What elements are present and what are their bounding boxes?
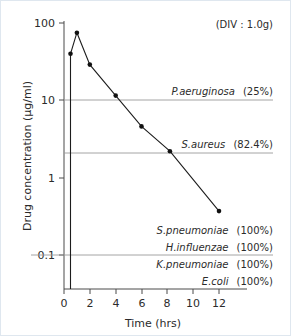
x-tick-label-6: 6 xyxy=(139,297,146,310)
data-point xyxy=(168,149,173,154)
dose-annotation: (DIV : 1.0g) xyxy=(216,19,273,30)
y-tick-label-10: 10 xyxy=(41,94,55,107)
data-point xyxy=(88,62,93,67)
x-tick-label-10: 10 xyxy=(186,297,200,310)
organism-name-s-aureus: S.aureus xyxy=(182,139,226,150)
data-point xyxy=(217,209,222,214)
y-tick-label-1: 1 xyxy=(48,172,55,185)
pharmacokinetic-chart: 100 10 1 0.1 0 2 4 6 8 10 12 Time (hrs) … xyxy=(1,1,291,336)
organism-label-s-pneumoniae: S.pneumoniae (100%) xyxy=(157,219,274,238)
organism-percent-s-pneumoniae: (100%) xyxy=(237,225,273,236)
x-tick-label-12: 12 xyxy=(212,297,226,310)
chart-container: 100 10 1 0.1 0 2 4 6 8 10 12 Time (hrs) … xyxy=(0,0,291,336)
organism-label-s-aureus: S.aureus (82.4%) xyxy=(182,133,274,152)
organism-name-k-pneumoniae: K.pneumoniae xyxy=(156,259,228,270)
x-tick-label-2: 2 xyxy=(87,297,94,310)
organism-percent-p-aeruginosa: (25%) xyxy=(243,86,273,97)
organism-name-e-coli: E.coli xyxy=(202,276,229,287)
data-point xyxy=(68,52,73,57)
organism-name-p-aeruginosa: P.aeruginosa xyxy=(171,86,234,97)
data-point xyxy=(113,93,118,98)
organism-percent-s-aureus: (82.4%) xyxy=(233,139,273,150)
y-tick-label-0.1: 0.1 xyxy=(38,249,56,262)
organism-percent-e-coli: (100%) xyxy=(237,276,273,287)
x-tick-label-0: 0 xyxy=(61,297,68,310)
organism-name-h-influenzae: H.influenzae xyxy=(166,242,229,253)
organism-label-h-influenzae: H.influenzae (100%) xyxy=(166,236,273,255)
data-point xyxy=(139,124,144,129)
organism-label-p-aeruginosa: P.aeruginosa (25%) xyxy=(171,80,273,99)
organism-label-e-coli: E.coli (100%) xyxy=(202,270,273,289)
organism-label-k-pneumoniae: K.pneumoniae (100%) xyxy=(156,253,273,272)
x-tick-label-4: 4 xyxy=(113,297,120,310)
y-tick-label-100: 100 xyxy=(34,17,55,30)
organism-percent-k-pneumoniae: (100%) xyxy=(237,259,273,270)
organism-labels: P.aeruginosa (25%) S.aureus (82.4%) S.pn… xyxy=(156,80,273,289)
x-tick-label-8: 8 xyxy=(164,297,171,310)
organism-percent-h-influenzae: (100%) xyxy=(237,242,273,253)
data-point xyxy=(75,30,80,35)
y-axis-title: Drug concentration (μg/ml) xyxy=(21,81,34,231)
y-axis-ticks: 100 10 1 0.1 xyxy=(34,17,64,262)
x-axis-title: Time (hrs) xyxy=(124,317,181,330)
organism-name-s-pneumoniae: S.pneumoniae xyxy=(157,225,229,236)
x-axis-ticks: 0 2 4 6 8 10 12 xyxy=(61,289,227,310)
